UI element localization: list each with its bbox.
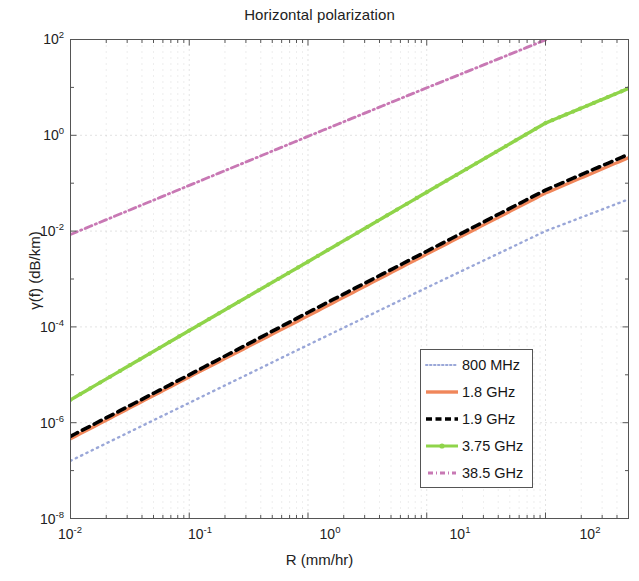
axes-frame: [71, 40, 629, 519]
legend-item-800mhz[interactable]: 800 MHz: [421, 351, 534, 378]
chart-figure: Horizontal polarization R (mm/hr) γ(f) (…: [0, 0, 639, 581]
plot-area: [0, 0, 639, 581]
legend-swatch-3-75ghz: [425, 439, 459, 453]
series-markers: [68, 86, 630, 402]
legend-label: 1.8 GHz: [462, 384, 515, 400]
legend-label: 3.75 GHz: [462, 438, 523, 454]
legend-item-38-5ghz[interactable]: 38.5 GHz: [421, 459, 534, 486]
legend-item-1-9ghz[interactable]: 1.9 GHz: [421, 405, 534, 432]
legend-swatch-38-5ghz: [425, 466, 459, 480]
legend-label: 1.9 GHz: [462, 411, 515, 427]
series-line: [71, 25, 584, 234]
legend-swatch-1-8ghz: [425, 385, 459, 399]
grid-lines: [71, 40, 629, 519]
series-line: [71, 88, 629, 399]
legend-label: 38.5 GHz: [462, 465, 523, 481]
legend: 800 MHz 1.8 GHz 1.9 GHz 3.75 GHz 38.5 GH…: [420, 349, 533, 488]
legend-swatch-800mhz: [425, 358, 459, 372]
legend-item-3-75ghz[interactable]: 3.75 GHz: [421, 432, 534, 459]
axis-ticks: [71, 40, 629, 519]
legend-swatch-1-9ghz: [425, 412, 459, 426]
data-series-layer: [68, 25, 630, 461]
legend-item-1-8ghz[interactable]: 1.8 GHz: [421, 378, 534, 405]
legend-label: 800 MHz: [462, 357, 520, 373]
